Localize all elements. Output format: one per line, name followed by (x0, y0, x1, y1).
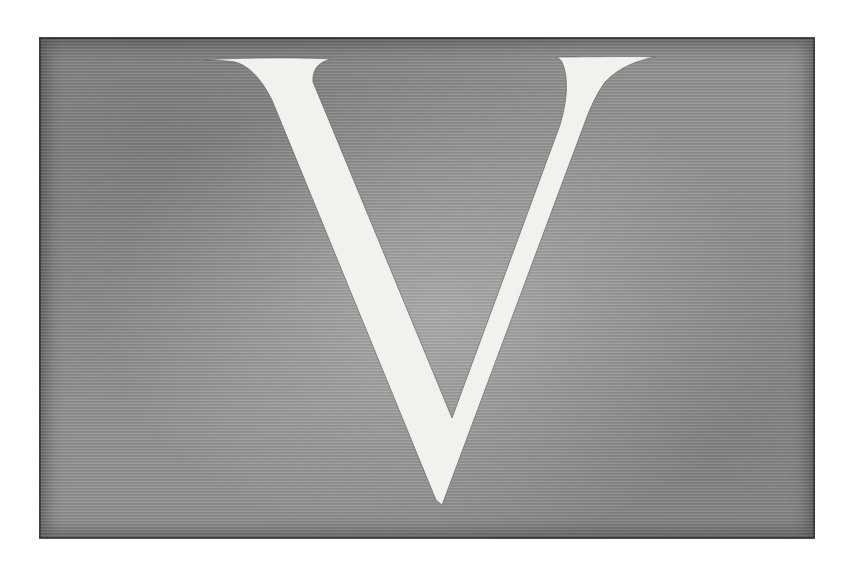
letter-v-glyph: V (0, 0, 857, 569)
